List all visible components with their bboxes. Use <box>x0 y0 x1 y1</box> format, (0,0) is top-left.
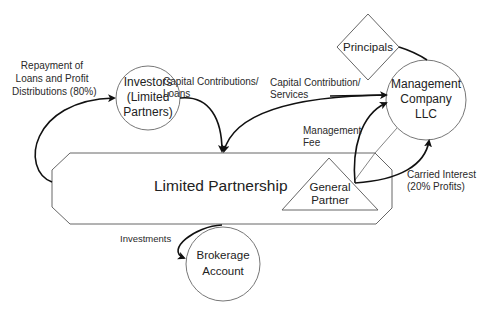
carried-interest-label: Carried Interest (20% Profits) <box>407 169 476 193</box>
management-fee-label: Management Fee <box>303 125 361 149</box>
connector-line <box>375 128 397 153</box>
capital-contributions-arrow <box>180 98 222 151</box>
capital-services-label: Capital Contribution/ Services <box>270 77 361 101</box>
brokerage-account-label: Brokerage Account <box>188 247 258 279</box>
investments-label: Investments <box>120 233 171 245</box>
management-company-label: Management Company LLC <box>386 77 466 122</box>
principals-label: Principals <box>338 40 398 54</box>
general-partner-label: General Partner <box>300 181 360 207</box>
repayment-label: Repayment of Loans and Profit Distributi… <box>12 59 92 98</box>
principals-link <box>399 47 427 60</box>
capital-contributions-label: Capital Contributions/ Loans <box>163 76 259 100</box>
